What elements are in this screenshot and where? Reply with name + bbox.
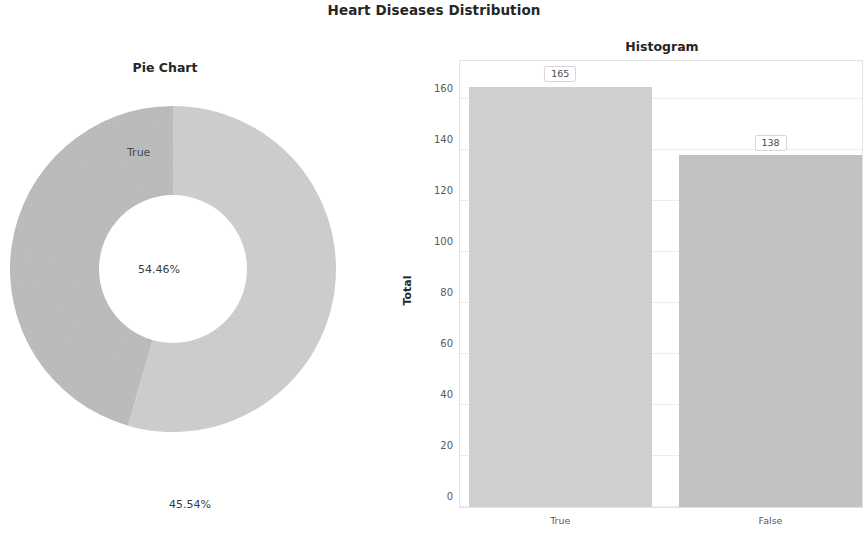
- histogram-panel: Histogram Total 020406080100120140160 16…: [400, 34, 868, 545]
- pie-chart-title: Pie Chart: [0, 60, 330, 75]
- x-tick-label: True: [550, 515, 570, 526]
- y-tick-label: 20: [440, 440, 453, 451]
- bar-false[interactable]: [679, 155, 862, 507]
- bar-value-label-true: 165: [544, 66, 576, 82]
- y-tick-label: 160: [434, 83, 453, 94]
- y-tick-label: 140: [434, 134, 453, 145]
- y-tick-label: 40: [440, 389, 453, 400]
- y-axis-label: Total: [401, 275, 414, 305]
- y-tick-label: 120: [434, 185, 453, 196]
- y-tick-label: 60: [440, 338, 453, 349]
- figure-canvas: Heart Diseases Distribution Pie Chart: [0, 0, 868, 545]
- donut-chart: True False 54.46% 45.54%: [8, 104, 338, 434]
- y-tick-label: 0: [447, 491, 453, 502]
- histogram-plot-area: 020406080100120140160 165 138 TrueFalse: [459, 60, 863, 508]
- bar-value-label-false: 138: [754, 135, 786, 151]
- histogram-title: Histogram: [456, 39, 868, 54]
- y-tick-label: 100: [434, 236, 453, 247]
- figure-suptitle: Heart Diseases Distribution: [0, 2, 868, 18]
- bar-true[interactable]: [469, 87, 652, 508]
- y-tick-label: 80: [440, 287, 453, 298]
- pie-percent-true: 54.46%: [138, 263, 180, 276]
- pie-label-true: True: [127, 146, 150, 159]
- pie-chart-panel: Pie Chart: [0, 34, 400, 539]
- x-tick-label: False: [759, 515, 783, 526]
- pie-percent-false: 45.54%: [169, 498, 211, 511]
